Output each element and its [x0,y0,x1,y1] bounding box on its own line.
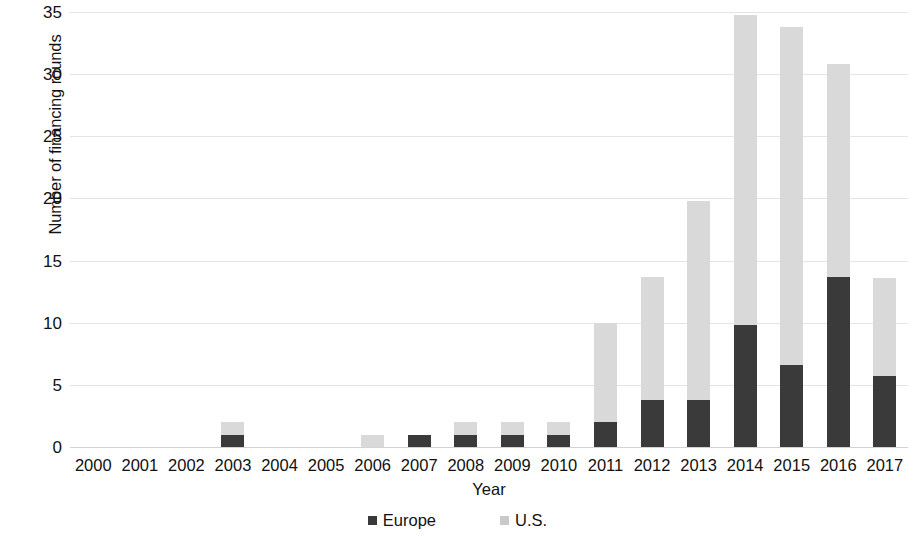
bar-segment-us[interactable] [734,15,757,326]
y-tick-label: 0 [0,439,62,456]
bar-stack[interactable] [408,435,431,447]
bar-slot [256,12,303,447]
x-tick-label: 2017 [862,452,909,478]
bar-segment-us[interactable] [501,422,524,434]
bar-segment-europe[interactable] [687,400,710,447]
bar-segment-us[interactable] [687,201,710,400]
y-tick-label: 20 [0,190,62,207]
bar-slot [536,12,583,447]
bar-stack[interactable] [687,201,710,447]
x-tick-label: 2007 [396,452,443,478]
bars-layer [70,12,908,447]
bar-slot [675,12,722,447]
x-tick-label: 2015 [768,452,815,478]
bar-slot [582,12,629,447]
bar-stack[interactable] [827,64,850,447]
bar-stack[interactable] [361,435,384,447]
bar-stack[interactable] [641,277,664,447]
legend-label: Europe [383,511,436,530]
bar-segment-us[interactable] [827,64,850,277]
x-tick-label: 2003 [210,452,257,478]
bar-segment-us[interactable] [547,422,570,434]
x-tick-label: 2008 [443,452,490,478]
x-tick-label: 2016 [815,452,862,478]
chart-legend: EuropeU.S. [0,511,915,530]
x-tick-label: 2012 [629,452,676,478]
bar-segment-europe[interactable] [827,277,850,447]
bar-segment-us[interactable] [873,278,896,376]
bar-slot [722,12,769,447]
bar-slot [303,12,350,447]
x-tick-label: 2013 [675,452,722,478]
bar-segment-us[interactable] [221,422,244,434]
bar-segment-us[interactable] [454,422,477,434]
y-tick-label: 15 [0,252,62,269]
y-tick-label: 30 [0,66,62,83]
bar-slot [768,12,815,447]
bar-segment-europe[interactable] [873,376,896,447]
bar-slot [396,12,443,447]
bar-segment-europe[interactable] [454,435,477,447]
x-tick-label: 2002 [163,452,210,478]
bar-slot [443,12,490,447]
plot-area [70,12,908,447]
bar-segment-us[interactable] [780,27,803,365]
bar-segment-us[interactable] [641,277,664,400]
bar-stack[interactable] [873,278,896,447]
bar-segment-europe[interactable] [221,435,244,447]
y-tick-label: 25 [0,128,62,145]
bar-stack[interactable] [594,323,617,447]
bar-slot [349,12,396,447]
bar-slot [815,12,862,447]
europe-swatch [368,516,377,525]
stacked-bar-chart: Number of financing rounds 0510152025303… [0,0,915,537]
x-tick-label: 2005 [303,452,350,478]
bar-stack[interactable] [454,422,477,447]
bar-slot [117,12,164,447]
x-tick-label: 2006 [349,452,396,478]
bar-slot [862,12,909,447]
bar-stack[interactable] [221,422,244,447]
bar-stack[interactable] [501,422,524,447]
bar-stack[interactable] [780,27,803,447]
x-axis-tick-labels: 2000200120022003200420052006200720082009… [70,452,908,478]
x-tick-label: 2011 [582,452,629,478]
x-tick-label: 2004 [256,452,303,478]
bar-segment-europe[interactable] [734,325,757,447]
y-tick-label: 10 [0,314,62,331]
legend-item[interactable]: Europe [368,511,436,530]
bar-segment-europe[interactable] [501,435,524,447]
y-tick-label: 35 [0,4,62,21]
bar-stack[interactable] [547,422,570,447]
x-tick-label: 2010 [536,452,583,478]
bar-segment-europe[interactable] [547,435,570,447]
bar-segment-europe[interactable] [594,422,617,447]
bar-slot [70,12,117,447]
bar-segment-us[interactable] [361,435,384,447]
bar-stack[interactable] [734,15,757,448]
x-axis-title: Year [70,480,908,499]
y-axis-tick-labels: 05101520253035 [0,12,62,447]
y-tick-label: 5 [0,376,62,393]
bar-segment-europe[interactable] [641,400,664,447]
bar-segment-us[interactable] [594,323,617,422]
bar-segment-europe[interactable] [408,435,431,447]
bar-slot [629,12,676,447]
bar-segment-europe[interactable] [780,365,803,447]
x-tick-label: 2000 [70,452,117,478]
x-tick-label: 2009 [489,452,536,478]
bar-slot [163,12,210,447]
legend-item[interactable]: U.S. [500,511,547,530]
bar-slot [489,12,536,447]
us-swatch [500,516,509,525]
gridline [70,447,908,448]
x-tick-label: 2001 [117,452,164,478]
legend-label: U.S. [515,511,547,530]
x-tick-label: 2014 [722,452,769,478]
bar-slot [210,12,257,447]
